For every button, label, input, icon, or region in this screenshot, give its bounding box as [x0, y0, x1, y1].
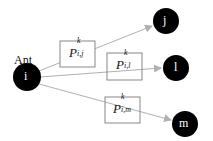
node-l-label: l: [174, 60, 177, 75]
node-m-label: m: [179, 116, 188, 131]
node-j-label: j: [163, 13, 166, 28]
prob-ij-label: Pki,j: [69, 45, 77, 61]
prob-il-label: Pki,l: [116, 57, 124, 73]
prob-im-label: Pki,m: [113, 101, 121, 117]
edge-i-l: [40, 68, 161, 77]
ant-label: Ant: [14, 53, 32, 68]
node-i-label: i: [24, 69, 27, 84]
